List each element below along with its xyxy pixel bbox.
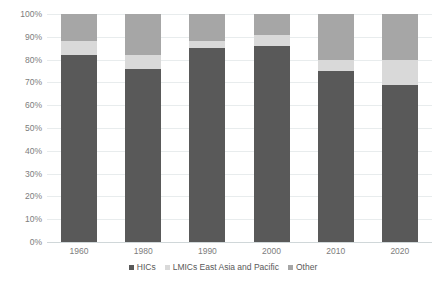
bar-series-container [47, 14, 432, 242]
bar-group-1990 [175, 14, 239, 242]
legend-label: HICs [137, 263, 156, 272]
legend-swatch-icon [288, 265, 293, 270]
y-axis-tick-label: 50% [0, 124, 42, 133]
legend-swatch-icon [129, 265, 134, 270]
bar-segment[interactable] [382, 60, 418, 85]
bar-segment[interactable] [318, 71, 354, 242]
y-axis-tick-label: 10% [0, 215, 42, 224]
x-axis-tick-label: 1960 [47, 244, 111, 258]
bar-segment[interactable] [189, 41, 225, 48]
y-axis-tick-label: 60% [0, 101, 42, 110]
bar-group-2000 [240, 14, 304, 242]
bar-stack[interactable] [254, 14, 290, 242]
bar-group-1960 [47, 14, 111, 242]
x-axis-tick-label: 2000 [240, 244, 304, 258]
bar-stack[interactable] [318, 14, 354, 242]
y-axis-tick-label: 100% [0, 10, 42, 19]
bar-group-1980 [111, 14, 175, 242]
y-axis-tick-label: 0% [0, 238, 42, 247]
y-axis-tick-label: 20% [0, 192, 42, 201]
y-axis-tick-label: 70% [0, 78, 42, 87]
legend-item[interactable]: LMICs East Asia and Pacific [165, 263, 279, 272]
bar-stack[interactable] [189, 14, 225, 242]
bar-segment[interactable] [254, 46, 290, 242]
bar-stack[interactable] [125, 14, 161, 242]
bar-segment[interactable] [61, 55, 97, 242]
legend-swatch-icon [165, 265, 170, 270]
bar-segment[interactable] [125, 69, 161, 242]
y-axis-tick-label: 40% [0, 146, 42, 155]
gridline [47, 242, 432, 243]
chart-legend: HICsLMICs East Asia and PacificOther [0, 263, 446, 272]
bar-segment[interactable] [382, 85, 418, 242]
legend-item[interactable]: HICs [129, 263, 156, 272]
y-axis-tick-label: 90% [0, 32, 42, 41]
bar-segment[interactable] [318, 14, 354, 60]
legend-label: Other [296, 263, 317, 272]
bar-group-2010 [304, 14, 368, 242]
bar-segment[interactable] [189, 48, 225, 242]
y-axis-tick-label: 80% [0, 55, 42, 64]
bar-group-2020 [368, 14, 432, 242]
bar-segment[interactable] [382, 14, 418, 60]
x-axis-tick-label: 1990 [175, 244, 239, 258]
x-axis-tick-label: 2010 [304, 244, 368, 258]
bar-segment[interactable] [189, 14, 225, 41]
x-axis-tick-label: 1980 [111, 244, 175, 258]
legend-item[interactable]: Other [288, 263, 317, 272]
bar-segment[interactable] [61, 14, 97, 41]
bar-segment[interactable] [125, 55, 161, 69]
x-axis-tick-label: 2020 [368, 244, 432, 258]
bar-segment[interactable] [61, 41, 97, 55]
stacked-bar-chart: 0%10%20%30%40%50%60%70%80%90%100% 196019… [0, 0, 446, 290]
bar-segment[interactable] [254, 14, 290, 35]
y-axis-tick-label: 30% [0, 169, 42, 178]
legend-label: LMICs East Asia and Pacific [173, 263, 279, 272]
x-axis: 196019801990200020102020 [47, 244, 432, 258]
bar-segment[interactable] [125, 14, 161, 55]
bar-stack[interactable] [382, 14, 418, 242]
y-axis: 0%10%20%30%40%50%60%70%80%90%100% [0, 14, 42, 242]
bar-segment[interactable] [254, 35, 290, 46]
plot-area [47, 14, 432, 242]
bar-stack[interactable] [61, 14, 97, 242]
bar-segment[interactable] [318, 60, 354, 71]
